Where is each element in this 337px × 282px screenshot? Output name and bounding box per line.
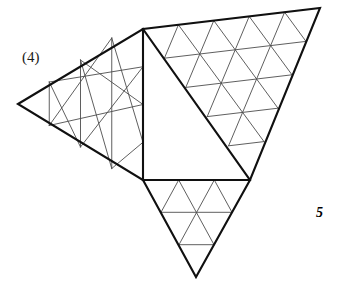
background-rect — [0, 0, 337, 282]
figure-number-label: 5 — [316, 206, 323, 220]
part-label: (4) — [22, 50, 40, 65]
figure-canvas: (4) 5 — [0, 0, 337, 282]
geometric-figure — [0, 0, 337, 282]
